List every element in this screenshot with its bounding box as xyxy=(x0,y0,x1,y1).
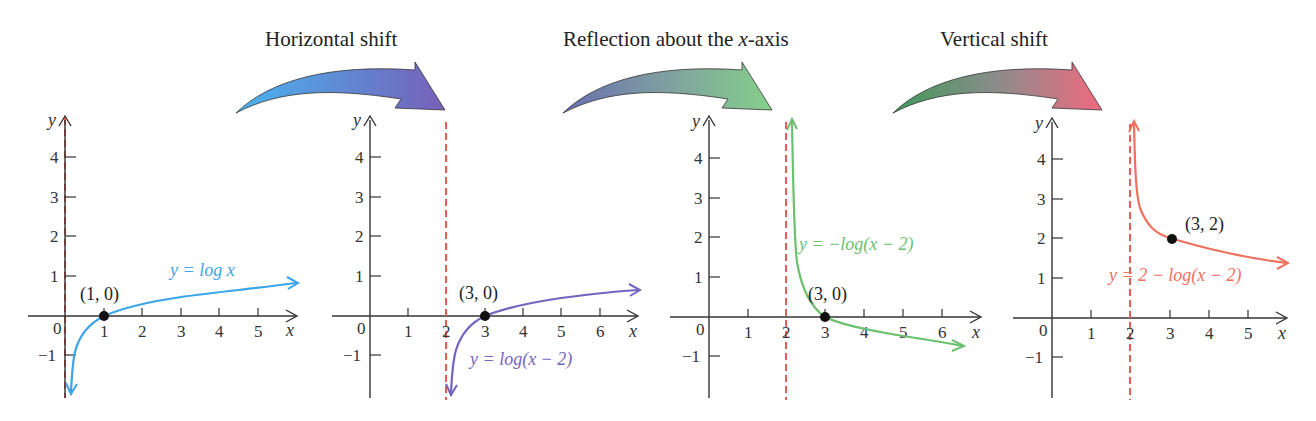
x-tick-label: 4 xyxy=(1205,324,1214,343)
y-tick-label: 3 xyxy=(50,188,59,207)
y-tick-label: 2 xyxy=(50,227,59,246)
x-tick-label: 1 xyxy=(1087,324,1096,343)
y-tick-label: −1 xyxy=(682,347,700,366)
graph-neg-log-x-minus-2: 1 2 3 4 5 6 4 3 2 1 −1 0 x y (3, 0) y = … xyxy=(670,111,981,400)
x-tick-label: 2 xyxy=(782,323,791,342)
y-tick-label: 1 xyxy=(50,267,59,286)
equation-label: y = 2 − log(x − 2) xyxy=(1107,265,1241,286)
point-label: (3, 0) xyxy=(808,284,847,305)
x-tick-label: 6 xyxy=(596,322,605,341)
x-tick-label: 1 xyxy=(744,323,753,342)
x-tick-label: 4 xyxy=(860,323,869,342)
transition-label-horizontal-shift: Horizontal shift xyxy=(265,27,398,51)
x-tick-label: 3 xyxy=(177,322,186,341)
x-tick-label: 5 xyxy=(899,323,908,342)
y-tick-label: 4 xyxy=(50,148,59,167)
y-tick-label: 4 xyxy=(355,148,364,167)
x-axis-label: x xyxy=(628,321,637,341)
curved-arrow-icon xyxy=(236,62,445,113)
y-tick-label: −1 xyxy=(38,346,56,365)
x-tick-label: 3 xyxy=(821,323,830,342)
x-tick-label: 3 xyxy=(481,322,490,341)
y-tick-label: 1 xyxy=(355,267,364,286)
x-tick-label: 4 xyxy=(215,322,224,341)
equation-label: y = −log(x − 2) xyxy=(797,234,913,255)
y-tick-label: 3 xyxy=(355,188,364,207)
point-label: (3, 0) xyxy=(459,283,498,304)
y-tick-label: 3 xyxy=(694,189,703,208)
y-tick-label: 4 xyxy=(1037,150,1046,169)
y-tick-label: 3 xyxy=(1037,190,1046,209)
x-axis-label: x xyxy=(285,320,294,340)
transition-label-vertical-shift: Vertical shift xyxy=(940,27,1048,51)
y-axis-label: y xyxy=(351,110,361,130)
y-tick-label: 1 xyxy=(694,268,703,287)
y-tick-label: −1 xyxy=(343,346,361,365)
equation-label: y = log(x − 2) xyxy=(468,349,572,370)
y-tick-label: 2 xyxy=(1037,229,1046,248)
y-tick-label: 4 xyxy=(694,149,703,168)
origin-label: 0 xyxy=(53,319,62,338)
point-label: (1, 0) xyxy=(80,284,119,305)
x-axis-label: x xyxy=(1277,323,1286,343)
key-point xyxy=(480,311,490,321)
x-tick-label: 1 xyxy=(404,322,413,341)
curve-log-x-minus-2 xyxy=(451,290,638,393)
x-axis-label: x xyxy=(971,322,980,342)
y-tick-label: 2 xyxy=(355,227,364,246)
y-tick-label: 1 xyxy=(1037,269,1046,288)
x-tick-label: 3 xyxy=(1166,324,1175,343)
equation-label: y = log x xyxy=(168,260,235,280)
origin-label: 0 xyxy=(357,319,366,338)
y-axis-label: y xyxy=(46,110,56,130)
origin-label: 0 xyxy=(1039,321,1048,340)
transition-label-reflection: Reflection about the x-axis xyxy=(563,27,789,51)
curved-arrow-icon xyxy=(563,62,772,113)
origin-label: 0 xyxy=(696,320,705,339)
graph-log-x: 1 2 3 4 5 4 3 2 1 −1 0 x y (1, 0) y = lo… xyxy=(28,110,298,398)
transformation-diagram: Horizontal shift Reflection about the x-… xyxy=(0,0,1316,421)
x-tick-label: 2 xyxy=(1126,324,1135,343)
x-tick-label: 5 xyxy=(254,322,263,341)
x-tick-label: 1 xyxy=(100,322,109,341)
key-point xyxy=(820,312,830,322)
key-point xyxy=(1167,234,1177,244)
y-axis-label: y xyxy=(690,111,700,131)
y-tick-label: 2 xyxy=(694,228,703,247)
curved-arrow-icon xyxy=(893,62,1102,113)
x-tick-label: 5 xyxy=(1244,324,1253,343)
graph-log-x-minus-2: 1 2 3 4 5 6 4 3 2 1 −1 0 x y (3, 0) y = … xyxy=(332,110,640,400)
x-tick-label: 2 xyxy=(442,322,451,341)
graph-2-minus-log-x-minus-2: 1 2 3 4 5 4 3 2 1 −1 0 x y (3, 2) y = 2 … xyxy=(1013,113,1288,400)
y-axis-label: y xyxy=(1033,113,1043,133)
x-tick-label: 2 xyxy=(138,322,147,341)
x-tick-label: 4 xyxy=(519,322,528,341)
x-tick-label: 5 xyxy=(557,322,566,341)
point-label: (3, 2) xyxy=(1185,214,1224,235)
key-point xyxy=(99,311,109,321)
x-tick-label: 6 xyxy=(938,323,947,342)
curve-2-minus-log-x-minus-2 xyxy=(1134,123,1286,263)
y-tick-label: −1 xyxy=(1025,348,1043,367)
